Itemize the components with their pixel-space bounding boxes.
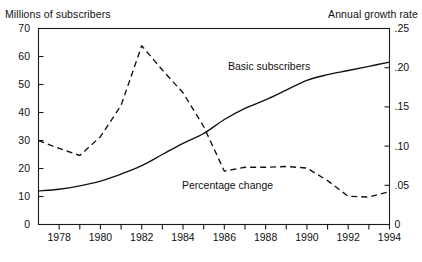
plot-area <box>0 0 422 262</box>
left-axis-title: Millions of subscribers <box>5 8 111 20</box>
series-label-basic-subscribers: Basic subscribers <box>228 60 310 72</box>
left-axis-tick-40: 40 <box>4 106 30 118</box>
x-axis-tick-1980: 1980 <box>80 231 120 243</box>
axis-tick-marks <box>39 57 390 230</box>
left-axis-tick-30: 30 <box>4 134 30 146</box>
right-axis-tick-0: 0 <box>395 218 422 230</box>
x-axis-tick-1982: 1982 <box>122 231 162 243</box>
right-axis-tick-p05: .05 <box>395 179 422 191</box>
chart-container: Millions of subscribers Annual growth ra… <box>0 0 422 262</box>
x-axis-tick-1992: 1992 <box>328 231 368 243</box>
left-axis-tick-10: 10 <box>4 190 30 202</box>
x-axis-tick-1988: 1988 <box>246 231 286 243</box>
left-axis-tick-50: 50 <box>4 78 30 90</box>
left-axis-tick-60: 60 <box>4 50 30 62</box>
x-axis-tick-1978: 1978 <box>39 231 79 243</box>
x-axis-tick-1984: 1984 <box>163 231 203 243</box>
series-label-percentage-change: Percentage change <box>182 179 273 191</box>
series-line-percentage-change <box>39 46 390 197</box>
right-axis-tick-p20: .20 <box>395 61 422 73</box>
right-axis-tick-p25: .25 <box>395 22 422 34</box>
x-axis-tick-1986: 1986 <box>204 231 244 243</box>
left-axis-tick-70: 70 <box>4 22 30 34</box>
x-axis-tick-1990: 1990 <box>287 231 327 243</box>
left-axis-tick-0: 0 <box>4 218 30 230</box>
series-line-basic-subscribers <box>39 62 390 191</box>
right-axis-tick-p10: .10 <box>395 140 422 152</box>
right-axis-title: Annual growth rate <box>328 8 418 20</box>
left-axis-tick-20: 20 <box>4 162 30 174</box>
right-axis-tick-p15: .15 <box>395 100 422 112</box>
x-axis-tick-1994: 1994 <box>370 231 410 243</box>
